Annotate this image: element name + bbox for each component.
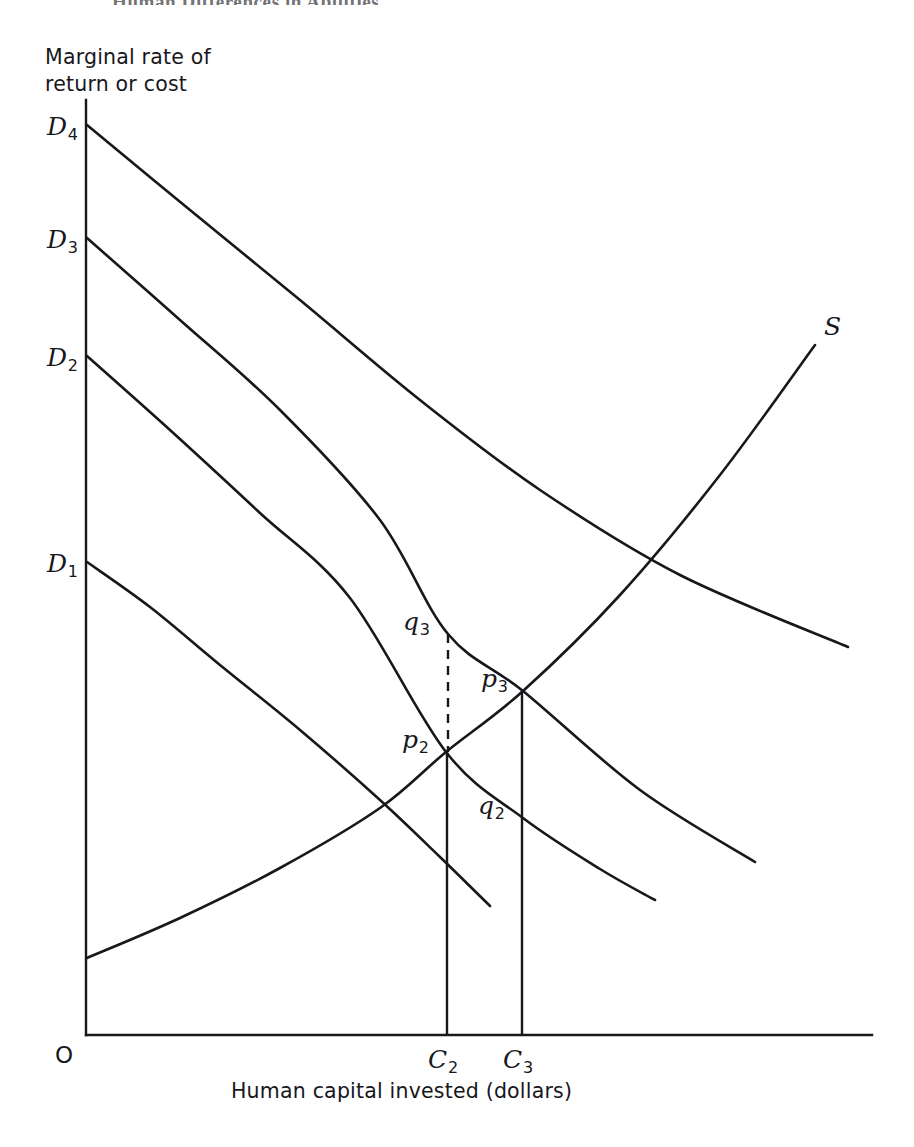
curve-d2: [87, 356, 655, 900]
figure-page: Human Differences in Abilities Marginal …: [0, 0, 914, 1147]
y-axis-title: Marginal rate of return or cost: [45, 44, 211, 98]
point-label-p3-subscript: 3: [498, 677, 508, 696]
point-label-q2-text: q: [478, 791, 494, 820]
curve-d3: [87, 238, 755, 862]
point-label-p2-text: p: [402, 725, 418, 754]
curve-label-d1: D1: [47, 547, 78, 582]
y-axis-title-line1: Marginal rate of: [45, 44, 211, 71]
curve-label-d3-subscript: 3: [68, 238, 78, 257]
curve-label-d2-subscript: 2: [68, 356, 78, 375]
point-label-p2: p2: [402, 723, 429, 758]
point-label-q3-text: q: [403, 607, 419, 636]
x-tick-label-c3-subscript: 3: [523, 1058, 533, 1077]
curve-label-d1-text: D: [47, 549, 67, 578]
x-tick-label-c3: C3: [503, 1043, 533, 1078]
point-label-q2-subscript: 2: [495, 804, 505, 823]
curve-label-d1-subscript: 1: [68, 562, 78, 581]
curves-group: [87, 125, 848, 958]
x-tick-label-c2-text: C: [428, 1045, 447, 1074]
curve-label-s-text: S: [824, 312, 841, 341]
curve-label-d3: D3: [47, 223, 78, 258]
x-tick-label-c3-text: C: [503, 1045, 522, 1074]
x-tick-label-c2-subscript: 2: [448, 1058, 458, 1077]
point-label-p3-text: p: [481, 664, 497, 693]
curve-label-d4-text: D: [47, 112, 67, 141]
x-tick-label-c2: C2: [428, 1043, 458, 1078]
origin-label: O: [55, 1040, 73, 1070]
chart-canvas: [0, 0, 914, 1147]
curve-label-d4: D4: [47, 110, 78, 145]
y-axis-title-line2: return or cost: [45, 71, 211, 98]
point-label-q3: q3: [403, 605, 430, 640]
point-label-q3-subscript: 3: [420, 620, 430, 639]
point-label-q2: q2: [478, 789, 505, 824]
curve-d4: [87, 125, 848, 647]
point-label-p2-subscript: 2: [419, 738, 429, 757]
curve-label-d2: D2: [47, 341, 78, 376]
curve-label-d2-text: D: [47, 343, 67, 372]
curve-label-d4-subscript: 4: [68, 125, 78, 144]
curve-label-d3-text: D: [47, 225, 67, 254]
x-axis-title: Human capital invested (dollars): [231, 1078, 572, 1105]
point-label-p3: p3: [481, 662, 508, 697]
curve-label-s: S: [824, 310, 841, 343]
